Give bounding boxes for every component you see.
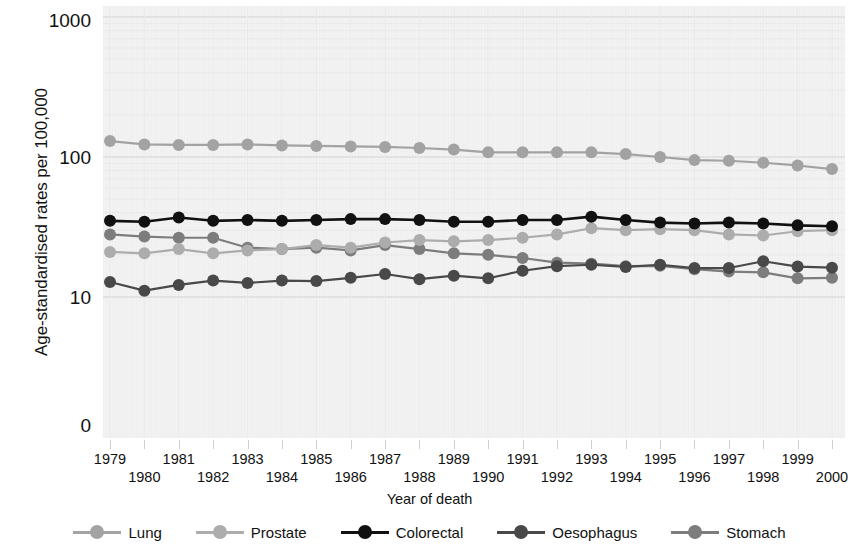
x-tick-label-1992: 1992 (541, 470, 573, 485)
x-axis-title: Year of death (0, 491, 859, 507)
x-tick-label-1981: 1981 (163, 452, 195, 467)
x-tick-mark (316, 440, 317, 449)
y-tick-label-10: 10 (0, 288, 103, 307)
legend-item-colorectal[interactable]: Colorectal (341, 524, 464, 541)
x-tick-mark (385, 440, 386, 449)
legend-item-prostate[interactable]: Prostate (196, 524, 307, 541)
x-tick-label-1988: 1988 (403, 470, 435, 485)
x-tick-mark (419, 440, 420, 449)
series-canvas (103, 6, 845, 438)
legend-item-lung[interactable]: Lung (73, 524, 161, 541)
series-lung (104, 135, 838, 175)
x-tick-mark (213, 440, 214, 449)
x-tick-label-1991: 1991 (506, 452, 538, 467)
x-tick-mark (248, 440, 249, 449)
x-tick-mark (179, 440, 180, 449)
legend-swatch-colorectal-icon (341, 525, 389, 539)
x-tick-label-1990: 1990 (472, 470, 504, 485)
legend-swatch-lung-icon (73, 525, 121, 539)
x-tick-label-1996: 1996 (678, 470, 710, 485)
x-tick-mark (110, 440, 111, 449)
x-tick-mark (832, 440, 833, 449)
legend-swatch-prostate-icon (196, 525, 244, 539)
x-tick-label-1999: 1999 (781, 452, 813, 467)
x-tick-mark (488, 440, 489, 449)
legend-label: Stomach (726, 524, 785, 541)
x-tick-mark (763, 440, 764, 449)
x-tick-mark (523, 440, 524, 449)
x-tick-mark (729, 440, 730, 449)
x-tick-mark (282, 440, 283, 449)
legend-label: Lung (128, 524, 161, 541)
legend-label: Prostate (251, 524, 307, 541)
chart-legend: LungProstateColorectalOesophagusStomach (0, 515, 859, 549)
legend-swatch-oesophagus-icon (497, 525, 545, 539)
x-tick-mark (454, 440, 455, 449)
x-tick-label-1998: 1998 (747, 470, 779, 485)
x-tick-label-1993: 1993 (575, 452, 607, 467)
legend-marker-icon (688, 525, 702, 539)
x-tick-label-1979: 1979 (94, 452, 126, 467)
x-tick-label-1989: 1989 (438, 452, 470, 467)
legend-label: Oesophagus (552, 524, 637, 541)
legend-label: Colorectal (396, 524, 464, 541)
legend-marker-icon (358, 525, 372, 539)
x-tick-label-1983: 1983 (231, 452, 263, 467)
x-tick-label-1986: 1986 (335, 470, 367, 485)
x-tick-label-1994: 1994 (610, 470, 642, 485)
x-tick-label-2000: 2000 (816, 470, 848, 485)
legend-marker-icon (514, 525, 528, 539)
x-tick-mark (626, 440, 627, 449)
x-tick-label-1982: 1982 (197, 470, 229, 485)
x-axis-tick-labels: 1979198019811982198319841985198619871988… (0, 440, 859, 492)
legend-swatch-stomach-icon (671, 525, 719, 539)
x-tick-label-1980: 1980 (128, 470, 160, 485)
legend-marker-icon (90, 525, 104, 539)
x-tick-label-1997: 1997 (713, 452, 745, 467)
legend-item-oesophagus[interactable]: Oesophagus (497, 524, 637, 541)
x-tick-label-1995: 1995 (644, 452, 676, 467)
x-tick-mark (144, 440, 145, 449)
legend-marker-icon (213, 525, 227, 539)
x-tick-mark (660, 440, 661, 449)
plot-area (103, 6, 845, 438)
x-tick-mark (694, 440, 695, 449)
x-tick-label-1987: 1987 (369, 452, 401, 467)
x-tick-label-1984: 1984 (266, 470, 298, 485)
x-tick-mark (591, 440, 592, 449)
x-tick-mark (798, 440, 799, 449)
y-axis-tick-labels: 1000100100 (0, 0, 103, 450)
x-tick-mark (557, 440, 558, 449)
legend-item-stomach[interactable]: Stomach (671, 524, 785, 541)
y-tick-label-100: 100 (0, 148, 103, 167)
chart-figure: Age-standardised rates per 100,000 10001… (0, 0, 859, 555)
x-tick-label-1985: 1985 (300, 452, 332, 467)
x-tick-mark (351, 440, 352, 449)
y-tick-label-1000: 1000 (0, 11, 103, 30)
y-tick-label-0: 0 (0, 416, 103, 435)
